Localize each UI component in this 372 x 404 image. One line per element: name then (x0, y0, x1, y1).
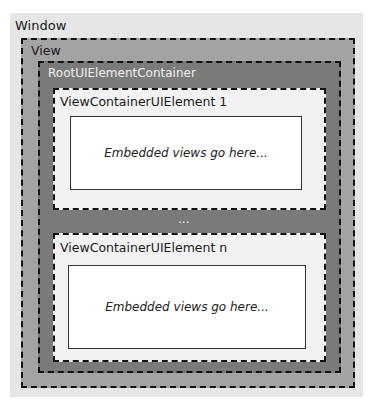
embedded-views-n-text: Embedded views go here... (105, 300, 269, 314)
view-container-n-label: ViewContainerUIElement n (60, 240, 227, 255)
embedded-views-1-text: Embedded views go here... (104, 146, 268, 160)
ellipsis-label: ... (178, 212, 189, 226)
embedded-views-n-box: Embedded views go here... (68, 265, 306, 349)
window-label: Window (15, 18, 66, 33)
root-ui-element-container-label: RootUIElementContainer (48, 66, 196, 80)
view-container-1-label: ViewContainerUIElement 1 (60, 94, 227, 109)
embedded-views-1-box: Embedded views go here... (70, 116, 302, 190)
view-label: View (31, 43, 61, 58)
